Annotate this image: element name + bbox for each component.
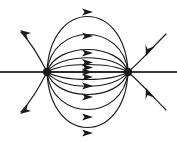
field-line-outer-lower-left [21, 72, 47, 112]
arrowhead-arc-lower-4 [82, 113, 93, 120]
arrowhead-arc-lower-5 [82, 129, 93, 136]
field-line-arc-lower-5 [47, 72, 128, 128]
arrowhead-arc-upper-3 [82, 49, 93, 56]
sink-charge-dot [124, 68, 132, 76]
source-charge-dot [43, 68, 51, 76]
arrowhead-outer-lower-left [20, 104, 31, 114]
arrowhead-arc-upper-2 [82, 32, 93, 39]
field-line-outer-upper-left [21, 32, 47, 72]
arrowhead-arc-upper-1 [82, 8, 93, 15]
dipole-field-svg [0, 0, 177, 142]
dipole-field-diagram [0, 0, 177, 142]
arrowhead-outer-upper-left [20, 30, 31, 40]
